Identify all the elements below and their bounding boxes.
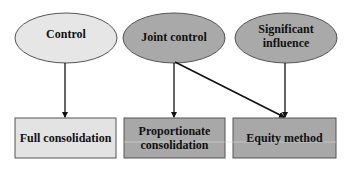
label-proportionate-line1: Proportionate [139, 124, 211, 138]
label-control-text: Control [46, 27, 86, 41]
label-full-consolidation: Full consolidation [15, 118, 116, 158]
label-control: Control [15, 13, 117, 63]
label-proportionate-line2: consolidation [140, 138, 208, 152]
label-proportionate-consolidation: Proportionate consolidation [124, 118, 225, 158]
label-full-consolidation-text: Full consolidation [20, 131, 112, 145]
label-significant-line2: influence [263, 36, 310, 50]
label-joint-control-text: Joint control [141, 30, 206, 44]
label-equity-method: Equity method [233, 118, 336, 158]
label-joint-control: Joint control [123, 13, 225, 63]
label-significant-influence: Significant influence [235, 13, 337, 63]
label-equity-method-text: Equity method [246, 131, 322, 145]
label-significant-line1: Significant [258, 22, 313, 36]
arrow-joint-to-equity [175, 62, 284, 117]
